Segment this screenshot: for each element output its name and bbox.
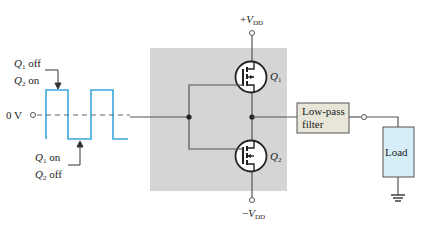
annotation-line-2: Q2 on xyxy=(14,74,41,91)
ground-icon xyxy=(391,195,405,201)
annotation-q1-on-q2-off: Q1 on Q2 off xyxy=(35,151,62,185)
q2-label: Q2 xyxy=(270,150,281,166)
input-terminal xyxy=(31,113,36,118)
q: Q xyxy=(14,74,22,86)
circuit-diagram xyxy=(0,0,429,234)
supply-negative-label: −VDD xyxy=(242,207,265,223)
symbol: V xyxy=(248,207,255,219)
mosfet-q2-icon xyxy=(236,141,267,172)
q: Q xyxy=(14,57,22,69)
filter-label-line-1: Low-pass xyxy=(302,105,345,118)
annotation-q1-off-q2-on: Q1 off Q2 on xyxy=(14,57,41,91)
state: on xyxy=(46,151,60,163)
q: Q xyxy=(35,168,43,180)
complementary-pair-block xyxy=(150,48,287,191)
arrow-q1-on xyxy=(68,141,83,165)
load-label: Load xyxy=(385,146,408,159)
q1-label: Q1 xyxy=(270,70,281,86)
annotation-line-1: Q1 on xyxy=(35,151,62,168)
vdd-negative-terminal xyxy=(250,198,255,203)
arrow-q1-off xyxy=(45,70,61,89)
state: off xyxy=(46,168,61,180)
annotation-line-1: Q1 off xyxy=(14,57,41,74)
load-wire xyxy=(367,117,398,127)
subscript: DD xyxy=(253,19,263,27)
filter-label-line-2: filter xyxy=(302,118,345,131)
subscript: DD xyxy=(255,213,265,221)
filter-output-terminal xyxy=(362,115,367,120)
q: Q xyxy=(35,151,43,163)
supply-positive-label: +VDD xyxy=(240,13,263,29)
vdd-positive-terminal xyxy=(250,31,255,36)
subscript: 1 xyxy=(278,76,282,84)
filter-label: Low-pass filter xyxy=(302,105,345,131)
input-node xyxy=(186,114,191,119)
symbol: Q xyxy=(270,70,278,82)
symbol: Q xyxy=(270,150,278,162)
zero-volt-label: 0 V xyxy=(6,109,22,121)
mosfet-q1-icon xyxy=(236,62,267,93)
subscript: 2 xyxy=(278,156,282,164)
symbol: V xyxy=(246,13,253,25)
state: off xyxy=(25,57,40,69)
state: on xyxy=(25,74,39,86)
annotation-line-2: Q2 off xyxy=(35,168,62,185)
